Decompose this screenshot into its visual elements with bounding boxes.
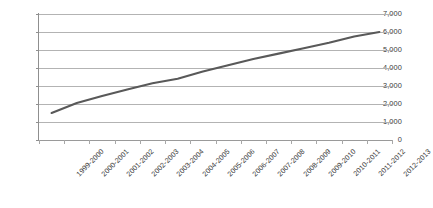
plot-area bbox=[39, 14, 392, 140]
x-tick-mark-12 bbox=[342, 140, 343, 144]
x-tick-mark-11 bbox=[316, 140, 317, 144]
x-tick-mark-9 bbox=[266, 140, 267, 144]
series-line-group bbox=[39, 14, 392, 140]
x-tick-mark-8 bbox=[241, 140, 242, 144]
x-tick-mark-5 bbox=[165, 140, 166, 144]
x-tick-mark-10 bbox=[291, 140, 292, 144]
x-tick-mark-13 bbox=[367, 140, 368, 144]
x-tick-mark-0 bbox=[39, 140, 40, 144]
x-tick-mark-7 bbox=[216, 140, 217, 144]
x-tick-mark-3 bbox=[115, 140, 116, 144]
x-tick-mark-14 bbox=[392, 140, 393, 144]
series-line-path bbox=[52, 32, 380, 113]
x-tick-mark-1 bbox=[64, 140, 65, 144]
x-tick-mark-6 bbox=[190, 140, 191, 144]
x-tick-mark-2 bbox=[89, 140, 90, 144]
x-tick-mark-4 bbox=[140, 140, 141, 144]
